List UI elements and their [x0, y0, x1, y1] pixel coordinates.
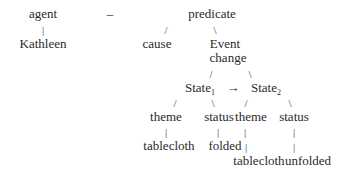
edge-state2-status: \ — [288, 97, 291, 109]
transition-arrow-icon: → — [227, 81, 240, 95]
dash-separator: – — [107, 7, 114, 21]
edge-event-state1: / — [209, 68, 212, 80]
predicate-node: predicate — [188, 7, 236, 21]
edge-theme2-tablecloth-cont: | — [245, 141, 247, 153]
tablecloth-node-1: tablecloth — [143, 139, 194, 153]
edge-theme1-tablecloth: | — [165, 126, 167, 138]
status-node-1: status — [204, 110, 234, 124]
edge-state1-status: \ — [211, 97, 214, 109]
edge-agent-kathleen: | — [42, 24, 44, 36]
cause-node: cause — [143, 37, 172, 51]
event-node: Event — [210, 37, 240, 51]
edge-predicate-event: \ — [213, 24, 216, 36]
change-node: change — [210, 51, 247, 65]
edge-state2-theme: / — [244, 97, 247, 109]
edge-status1-folded: | — [217, 126, 219, 138]
kathleen-node: Kathleen — [20, 37, 67, 51]
edge-theme2-tablecloth: | — [244, 126, 246, 138]
theme-node-2: theme — [235, 110, 267, 124]
agent-node: agent — [29, 7, 57, 21]
tablecloth-node-2: tablecloth — [233, 154, 284, 168]
status-node-2: status — [279, 110, 309, 124]
edge-status2-unfolded: | — [293, 126, 295, 138]
unfolded-node: unfolded — [285, 154, 331, 168]
edge-status2-unfolded-cont: | — [293, 141, 295, 153]
edge-state1-theme: / — [173, 97, 176, 109]
folded-node: folded — [208, 139, 241, 153]
edge-predicate-cause: / — [164, 24, 167, 36]
state1-node: State1 — [185, 81, 215, 95]
edge-event-state2: \ — [248, 68, 251, 80]
theme-node-1: theme — [150, 110, 182, 124]
state2-node: State2 — [251, 81, 281, 95]
